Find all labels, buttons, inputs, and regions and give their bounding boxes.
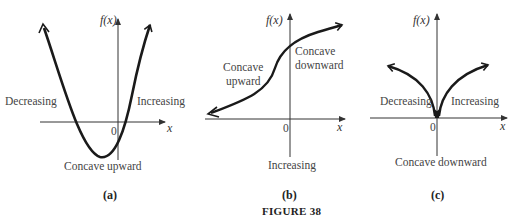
panel-b-origin-label: 0 xyxy=(283,123,289,135)
panel-a-y-axis-label: f(x) xyxy=(100,14,117,26)
panel-a-label-concave-upward: Concave upward xyxy=(64,161,142,173)
panel-c-x-axis-label: x xyxy=(500,120,505,132)
panel-b-label-concave-downward-1: Concave xyxy=(295,46,335,58)
panel-a-curve xyxy=(44,25,150,157)
panel-a-label-decreasing: Decreasing xyxy=(5,96,57,108)
panel-c-label-concave-downward: Concave downward xyxy=(395,157,487,169)
panel-b-x-axis-label: x xyxy=(337,121,342,133)
panel-a-x-axis-label: x xyxy=(167,122,172,134)
panel-c-y-axis-label: f(x) xyxy=(413,14,430,26)
panel-b-caption: (b) xyxy=(282,189,297,201)
panel-c-curve-right xyxy=(439,65,488,116)
panel-c-origin-label: 0 xyxy=(430,122,436,134)
panel-a-caption: (a) xyxy=(103,189,117,201)
panel-b-y-axis-label: f(x) xyxy=(266,14,283,26)
panel-a-origin-label: 0 xyxy=(111,126,117,138)
panel-b-label-concave-downward-2: downward xyxy=(295,60,344,72)
panel-c-caption: (c) xyxy=(431,189,444,201)
figure-canvas xyxy=(0,0,515,219)
panel-c-curve-left xyxy=(388,66,435,116)
panel-b-label-increasing: Increasing xyxy=(268,160,316,172)
panel-a-label-increasing: Increasing xyxy=(137,96,185,108)
panel-a-graph xyxy=(40,19,165,160)
panel-c-graph xyxy=(370,14,507,156)
panel-b-label-concave-upward-1: Concave xyxy=(223,62,263,74)
panel-c-label-decreasing: Decreasing xyxy=(380,96,432,108)
figure-caption: FIGURE 38 xyxy=(262,206,321,217)
panel-c-label-increasing: Increasing xyxy=(451,96,499,108)
panel-b-label-concave-upward-2: upward xyxy=(226,76,261,88)
